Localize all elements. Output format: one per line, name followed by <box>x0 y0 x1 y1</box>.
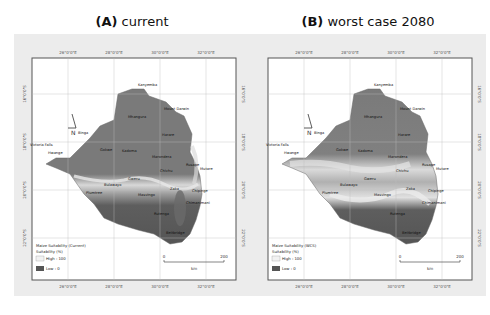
svg-text:20°0'0"S: 20°0'0"S <box>22 181 27 199</box>
svg-text:28°0'0"E: 28°0'0"E <box>341 284 359 289</box>
svg-text:22°0'0"S: 22°0'0"S <box>241 229 246 247</box>
svg-text:26°0'0"E: 26°0'0"E <box>59 284 77 289</box>
svg-text:30°0'0"E: 30°0'0"E <box>151 284 169 289</box>
svg-text:Plumtree: Plumtree <box>86 191 103 195</box>
svg-text:18°0'0"S: 18°0'0"S <box>477 133 482 151</box>
svg-text:Binga: Binga <box>314 131 324 135</box>
svg-text:28°0'0"E: 28°0'0"E <box>105 50 123 55</box>
svg-text:Masvingo: Masvingo <box>138 193 155 197</box>
latitude-labels-left: 16°0'0"S 18°0'0"S 20°0'0"S 22°0'0"S <box>22 85 27 247</box>
svg-text:20°0'0"S: 20°0'0"S <box>477 181 482 199</box>
svg-text:km: km <box>427 266 433 271</box>
svg-text:Maize Suitability (WCS): Maize Suitability (WCS) <box>272 243 317 248</box>
svg-text:Low : 0: Low : 0 <box>46 266 60 271</box>
svg-text:16°0'0"S: 16°0'0"S <box>22 85 27 103</box>
legend-high-swatch <box>272 256 280 261</box>
svg-text:Chipinge: Chipinge <box>192 189 209 193</box>
svg-text:Harare: Harare <box>398 133 411 137</box>
svg-text:Mhangura: Mhangura <box>364 115 382 119</box>
svg-text:Gokwe: Gokwe <box>336 148 349 152</box>
svg-text:18°0'0"S: 18°0'0"S <box>22 133 27 151</box>
svg-text:22°0'0"S: 22°0'0"S <box>477 229 482 247</box>
svg-text:26°0'0"E: 26°0'0"E <box>295 50 313 55</box>
svg-text:Chipinge: Chipinge <box>428 189 445 193</box>
svg-text:Marondera: Marondera <box>388 155 407 159</box>
svg-text:High : 100: High : 100 <box>282 256 302 261</box>
panel-a-label: current <box>122 14 169 29</box>
svg-text:30°0'0"E: 30°0'0"E <box>387 284 405 289</box>
svg-text:Binga: Binga <box>78 131 88 135</box>
legend-high-swatch <box>36 256 44 261</box>
svg-text:28°0'0"E: 28°0'0"E <box>341 50 359 55</box>
longitude-labels-bottom: 26°0'0"E 28°0'0"E 30°0'0"E 32°0'0"E <box>59 284 215 289</box>
svg-text:N: N <box>71 129 76 136</box>
svg-text:Suitability (%): Suitability (%) <box>36 249 63 254</box>
map-current: 26°0'0"E 28°0'0"E 30°0'0"E 32°0'0"E 26°0… <box>14 34 250 296</box>
svg-text:Rusape: Rusape <box>186 163 200 167</box>
svg-text:Gokwe: Gokwe <box>100 148 113 152</box>
svg-text:Harare: Harare <box>162 133 175 137</box>
svg-text:Zaka: Zaka <box>406 187 415 191</box>
svg-text:Chivhu: Chivhu <box>160 169 172 173</box>
svg-text:Rutenga: Rutenga <box>154 212 169 216</box>
svg-text:Chimanimani: Chimanimani <box>422 201 446 205</box>
svg-text:22°0'0"S: 22°0'0"S <box>22 229 27 247</box>
svg-text:Suitability (%): Suitability (%) <box>272 249 299 254</box>
svg-text:16°0'0"S: 16°0'0"S <box>477 85 482 103</box>
map-panel-current: 26°0'0"E 28°0'0"E 30°0'0"E 32°0'0"E 26°0… <box>14 34 250 296</box>
svg-text:N: N <box>307 129 312 136</box>
svg-text:Bulawayo: Bulawayo <box>340 183 357 187</box>
panel-b-title: (B) worst case 2080 <box>250 14 486 29</box>
svg-text:Beitbridge: Beitbridge <box>402 231 421 235</box>
svg-text:32°0'0"E: 32°0'0"E <box>197 284 215 289</box>
low-area-east <box>174 190 186 226</box>
svg-text:Plumtree: Plumtree <box>322 191 339 195</box>
legend-low-swatch <box>36 266 44 271</box>
svg-text:26°0'0"E: 26°0'0"E <box>59 50 77 55</box>
svg-text:18°0'0"S: 18°0'0"S <box>241 133 246 151</box>
svg-text:0: 0 <box>163 254 166 259</box>
panel-a-letter: (A) <box>96 14 118 29</box>
svg-text:30°0'0"E: 30°0'0"E <box>387 50 405 55</box>
longitude-labels-top: 26°0'0"E 28°0'0"E 30°0'0"E 32°0'0"E <box>59 50 215 55</box>
svg-text:Zaka: Zaka <box>170 187 179 191</box>
svg-text:Rutenga: Rutenga <box>390 212 405 216</box>
svg-text:Hwange: Hwange <box>48 151 63 155</box>
svg-text:Chivhu: Chivhu <box>396 169 408 173</box>
longitude-labels-top: 26°0'0"E 28°0'0"E 30°0'0"E 32°0'0"E <box>295 50 451 55</box>
longitude-labels-bottom: 26°0'0"E 28°0'0"E 30°0'0"E 32°0'0"E <box>295 284 451 289</box>
svg-text:Kanyemba: Kanyemba <box>138 83 157 87</box>
svg-text:Masvingo: Masvingo <box>374 193 391 197</box>
svg-text:Mhangura: Mhangura <box>128 115 146 119</box>
svg-text:26°0'0"E: 26°0'0"E <box>295 284 313 289</box>
svg-text:30°0'0"E: 30°0'0"E <box>151 50 169 55</box>
svg-text:28°0'0"E: 28°0'0"E <box>105 284 123 289</box>
svg-text:Victoria Falls: Victoria Falls <box>266 143 289 147</box>
panel-b-label: worst case 2080 <box>327 14 434 29</box>
svg-text:Chimanimani: Chimanimani <box>186 201 210 205</box>
svg-text:200: 200 <box>220 254 228 259</box>
latitude-labels-right: 16°0'0"S 18°0'0"S 20°0'0"S 22°0'0"S <box>477 85 482 247</box>
svg-text:Hwange: Hwange <box>284 151 299 155</box>
svg-text:Victoria Falls: Victoria Falls <box>30 143 53 147</box>
svg-text:Maize Suitability (Current): Maize Suitability (Current) <box>36 243 86 248</box>
svg-text:32°0'0"E: 32°0'0"E <box>433 284 451 289</box>
svg-text:Gweru: Gweru <box>364 177 376 181</box>
map-panel-worst-case-2080: 26°0'0"E 28°0'0"E 30°0'0"E 32°0'0"E 26°0… <box>250 34 486 296</box>
svg-text:16°0'0"S: 16°0'0"S <box>241 85 246 103</box>
svg-text:32°0'0"E: 32°0'0"E <box>433 50 451 55</box>
svg-text:High : 100: High : 100 <box>46 256 66 261</box>
svg-text:Low : 0: Low : 0 <box>282 266 296 271</box>
svg-text:Marondera: Marondera <box>152 155 171 159</box>
svg-text:Mount Darwin: Mount Darwin <box>400 107 425 111</box>
svg-text:32°0'0"E: 32°0'0"E <box>197 50 215 55</box>
svg-text:Mutare: Mutare <box>436 167 449 171</box>
svg-text:20°0'0"S: 20°0'0"S <box>241 181 246 199</box>
svg-text:Mutare: Mutare <box>200 167 213 171</box>
svg-text:Kadoma: Kadoma <box>358 149 373 153</box>
svg-text:km: km <box>191 266 197 271</box>
svg-text:Beitbridge: Beitbridge <box>166 231 185 235</box>
latitude-labels-right: 16°0'0"S 18°0'0"S 20°0'0"S 22°0'0"S <box>241 85 246 247</box>
svg-text:0: 0 <box>399 254 402 259</box>
svg-text:Kadoma: Kadoma <box>122 149 137 153</box>
